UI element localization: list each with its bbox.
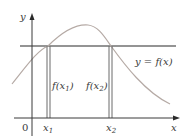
function-diagram: y x 0 x1 x2 f(x1) f(x2) y = f(x) (0, 0, 186, 140)
f-x1-label: f(x1) (51, 80, 74, 93)
x-axis-arrow-icon (173, 116, 180, 121)
x-axis-label: x (171, 122, 177, 133)
y-axis-label: y (19, 11, 26, 22)
x2-label: x2 (106, 122, 117, 135)
curve-label: y = f(x) (134, 56, 173, 67)
origin-label: 0 (22, 122, 28, 133)
f-x2-label: f(x2) (85, 80, 108, 93)
x1-label: x1 (43, 122, 53, 135)
y-axis-arrow-icon (30, 13, 35, 20)
